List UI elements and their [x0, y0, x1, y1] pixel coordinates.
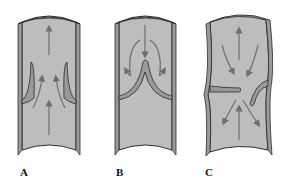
vein-lumen: [208, 15, 269, 152]
vein-panel-a: [18, 16, 80, 155]
panel-label-c: C: [205, 166, 213, 178]
vein-wall-right: [172, 22, 176, 155]
vein-valve-diagram: [0, 0, 289, 185]
panel-label-a: A: [20, 166, 28, 178]
vein-panel-b: [115, 16, 176, 155]
panel-label-b: B: [116, 166, 123, 178]
vein-wall-right: [76, 22, 80, 155]
vein-wall-left: [115, 22, 119, 155]
vein-wall-left: [18, 22, 22, 155]
vein-panel-c: [204, 15, 273, 156]
